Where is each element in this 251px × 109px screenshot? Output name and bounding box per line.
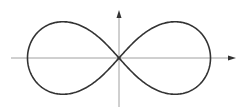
lemniscate-figure xyxy=(0,0,251,109)
y-axis-arrowhead-icon xyxy=(117,10,122,18)
x-axis-arrowhead-icon xyxy=(228,56,236,61)
origin-point xyxy=(117,56,120,59)
plot-canvas xyxy=(0,0,251,109)
